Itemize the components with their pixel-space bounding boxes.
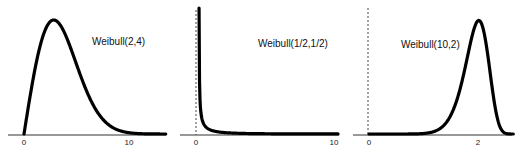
pdf-curve [369,20,513,134]
tick-label: 0 [22,138,26,147]
tick-label: 10 [330,138,339,147]
tick-label: 0 [194,138,198,147]
panel-weibull-10-2 [353,8,513,135]
panel-2-title: Weibull(1/2,1/2) [258,38,328,49]
tick-label: 2 [476,138,480,147]
panel-1-title: Weibull(2,4) [92,36,145,47]
tick-label: 10 [125,138,134,147]
panel-3-title: Weibull(10,2) [401,39,460,50]
panel-weibull-half-half [180,8,339,135]
tick-label: 0 [367,138,371,147]
weibull-charts [0,0,531,152]
pdf-curve [199,8,338,134]
